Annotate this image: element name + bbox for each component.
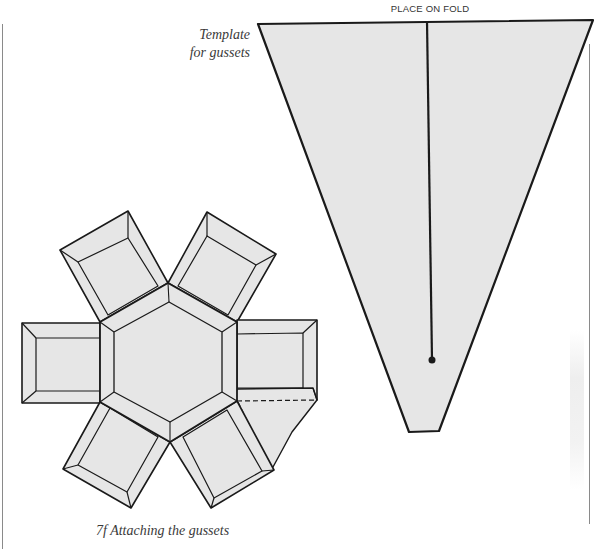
template-caption-line2: for gussets bbox=[160, 44, 250, 62]
flap-left bbox=[22, 323, 100, 403]
template-caption: Template for gussets bbox=[160, 26, 250, 62]
hexagon-net bbox=[22, 211, 317, 508]
diagram-drawing bbox=[0, 0, 602, 549]
template-caption-line1: Template bbox=[160, 26, 250, 44]
pattern-page: Template for gussets PLACE ON FOLD 7f At… bbox=[0, 0, 602, 549]
place-on-fold-label: PLACE ON FOLD bbox=[350, 3, 510, 14]
figure-caption: 7f Attaching the gussets bbox=[96, 523, 229, 539]
